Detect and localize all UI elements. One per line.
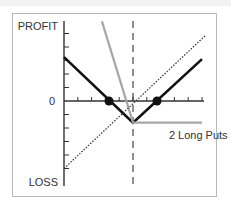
payoff-chart: PROFIT LOSS 0 2 Long Puts	[0, 0, 231, 211]
axes	[64, 21, 204, 186]
combined-position-line	[64, 57, 202, 122]
y-axis-top-label: PROFIT	[18, 20, 59, 32]
lower-breakeven-dot	[104, 97, 113, 106]
series-layer	[64, 21, 206, 168]
y-axis-bottom-label: LOSS	[29, 176, 58, 188]
y-axis-zero-label: 0	[49, 95, 55, 107]
upper-breakeven-dot	[153, 97, 162, 106]
puts-annotation-label: 2 Long Puts	[169, 129, 228, 141]
